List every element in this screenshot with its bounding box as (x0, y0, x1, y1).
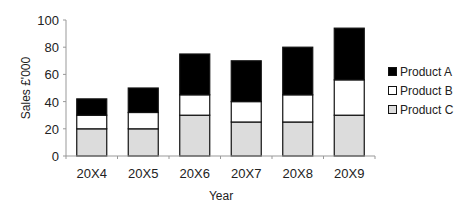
bar-segment (128, 129, 158, 156)
y-tick-label: 100 (37, 13, 59, 28)
bar-segment (77, 99, 107, 115)
legend-item-product-c: Product C (388, 100, 453, 119)
bar-segment (231, 122, 261, 156)
bar-segment (77, 129, 107, 156)
legend-label: Product C (400, 103, 453, 117)
y-tick-label: 40 (45, 95, 59, 110)
bar-segment (231, 102, 261, 122)
bar-segment (283, 95, 313, 122)
legend: Product A Product B Product C (388, 62, 453, 119)
y-tick-label: 0 (52, 149, 59, 164)
y-tick-label: 20 (45, 122, 59, 137)
y-axis: 020406080100 (37, 13, 66, 164)
bar-segment (231, 61, 261, 102)
legend-swatch-icon (388, 67, 397, 76)
bar-segment (334, 28, 364, 80)
bars (77, 28, 365, 156)
x-tick-label: 20X5 (128, 166, 158, 181)
x-tick-label: 20X8 (283, 166, 313, 181)
bar-stack-20X6 (180, 54, 210, 156)
bar-segment (128, 88, 158, 112)
y-axis-title: Sales £'000 (19, 57, 33, 120)
bar-segment (77, 115, 107, 129)
bar-stack-20X9 (334, 28, 364, 156)
x-tick-label: 20X7 (231, 166, 261, 181)
bar-stack-20X7 (231, 61, 261, 156)
x-tick-label: 20X6 (180, 166, 210, 181)
legend-swatch-icon (388, 105, 397, 114)
bar-stack-20X4 (77, 99, 107, 156)
y-tick-label: 80 (45, 40, 59, 55)
bar-segment (180, 95, 210, 115)
bar-segment (180, 115, 210, 156)
y-tick-label: 60 (45, 67, 59, 82)
bar-segment (283, 47, 313, 95)
bar-stack-20X5 (128, 88, 158, 156)
x-tick-label: 20X4 (77, 166, 107, 181)
legend-item-product-b: Product B (388, 81, 453, 100)
bar-segment (128, 112, 158, 128)
bar-segment (334, 80, 364, 115)
legend-item-product-a: Product A (388, 62, 453, 81)
legend-swatch-icon (388, 86, 397, 95)
legend-label: Product A (400, 65, 452, 79)
bar-segment (180, 54, 210, 95)
x-tick-label: 20X9 (334, 166, 364, 181)
x-axis-title: Year (209, 189, 233, 203)
legend-label: Product B (400, 84, 453, 98)
bar-segment (334, 115, 364, 156)
bar-segment (283, 122, 313, 156)
bar-stack-20X8 (283, 47, 313, 156)
x-axis: 20X420X520X620X720X820X9 (66, 156, 375, 181)
